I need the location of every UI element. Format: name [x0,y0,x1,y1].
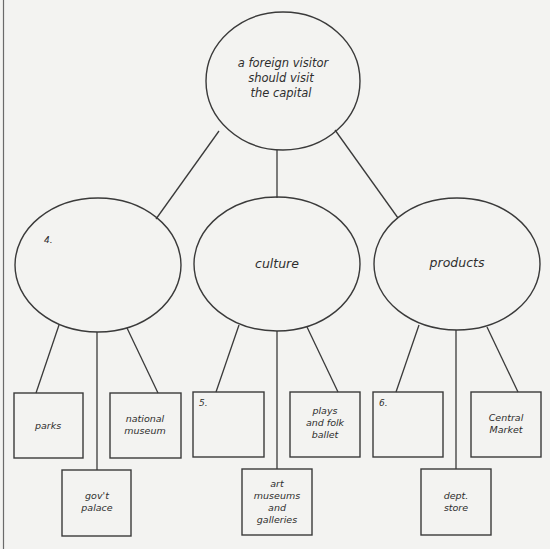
box-national-museum-line-1: national [126,413,165,424]
box-govt-palace-line-1: gov't [85,490,110,501]
edge-b1-c3 [127,328,158,393]
box-art-museums-line-2: museums [254,490,300,501]
box-govt-palace-line-2: palace [80,502,113,513]
edge-root-branch-3 [335,130,398,218]
root-label-line-3: the capital [250,86,312,100]
box-art-museums-line-3: and [268,502,287,513]
branch-1-label: 4. [44,235,53,245]
box-central-market-line-1: Central [489,412,524,423]
branch-3: products 6. dept. store Central Market [373,198,541,535]
box-plays-ballet-line-3: ballet [312,429,340,440]
edge-b3-c3 [487,327,518,392]
edge-b1-c1 [36,325,59,393]
box-plays-ballet-line-2: and folk [306,417,345,428]
box-art-museums-line-1: art [270,478,285,489]
box-plays-ballet-line-1: plays [311,405,337,416]
box-parks-label: parks [34,420,61,431]
box-central-market-line-2: Market [490,424,524,435]
edge-root-branch-1 [156,131,219,219]
root-label-line-2: should visit [248,71,314,85]
root-node: a foreign visitor should visit the capit… [206,12,360,150]
root-edges [156,130,398,219]
box-art-museums-line-4: galleries [257,514,297,525]
box-dept-store-line-1: dept. [444,490,469,501]
branch-2-label: culture [255,256,299,271]
edge-b3-c1 [396,325,419,392]
branch-1: 4. parks gov't palace national museum [14,198,181,536]
concept-map: a foreign visitor should visit the capit… [0,0,550,549]
box-dept-store-line-2: store [444,502,468,513]
box-national-museum-line-2: museum [124,425,165,436]
box-5-label: 5. [199,398,208,408]
edge-b2-c1 [216,325,239,392]
root-label-line-1: a foreign visitor [238,56,330,70]
branch-3-label: products [429,255,485,270]
edge-b2-c3 [307,327,338,392]
branch-2: culture 5. art museums and galleries pla… [193,197,360,535]
box-6-label: 6. [379,398,388,408]
